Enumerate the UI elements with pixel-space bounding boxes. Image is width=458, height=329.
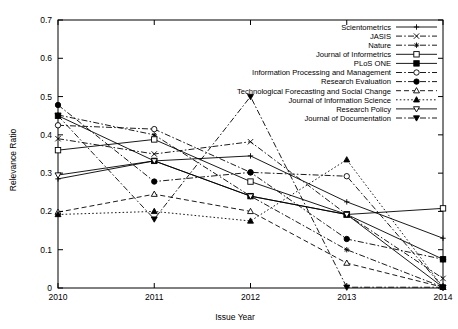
relevance-ratio-line-chart: 00.10.20.30.40.50.60.7 20102011201220132… xyxy=(0,0,458,329)
data-point-marker xyxy=(414,97,420,102)
data-point-marker xyxy=(440,236,445,241)
chart-legend: ScientometricsJASISNatureJournal of Info… xyxy=(237,23,437,123)
y-axis-title: Relevance Ratio xyxy=(8,129,18,192)
legend-item[interactable]: Journal of Informetrics xyxy=(316,50,437,59)
y-tick-label: 0.6 xyxy=(40,53,52,63)
chart-canvas: 00.10.20.30.40.50.60.7 20102011201220132… xyxy=(0,0,458,329)
series-line xyxy=(58,116,443,260)
legend-item[interactable]: Journal of Information Science xyxy=(288,96,437,105)
data-series-layer xyxy=(55,94,446,290)
series-line xyxy=(58,97,443,288)
y-tick-label: 0.3 xyxy=(40,168,52,178)
data-point-marker xyxy=(55,102,60,107)
y-tick-label: 0.5 xyxy=(40,92,52,102)
series-nature xyxy=(55,112,445,290)
data-point-marker xyxy=(414,43,419,48)
legend-label: Nature xyxy=(368,41,391,50)
y-tick-label: 0.1 xyxy=(40,245,52,255)
data-point-marker xyxy=(440,257,445,262)
legend-label: Information Processing and Management xyxy=(252,68,392,77)
data-point-marker xyxy=(414,79,419,84)
x-tick-label: 2014 xyxy=(434,292,453,302)
legend-item[interactable]: Nature xyxy=(368,41,437,50)
legend-item[interactable]: Journal of Documentation xyxy=(304,114,437,123)
legend-item[interactable]: Information Processing and Management xyxy=(252,68,437,77)
legend-item[interactable]: PLoS ONE xyxy=(354,59,437,68)
data-point-marker xyxy=(248,170,253,175)
legend-label: Technological Forecasting and Social Cha… xyxy=(237,87,391,96)
data-point-marker xyxy=(414,33,419,38)
legend-item[interactable]: Research Evaluation xyxy=(321,77,437,86)
series-journal-of-informetrics xyxy=(55,137,445,217)
legend-label: Research Evaluation xyxy=(321,77,391,86)
series-line xyxy=(58,125,443,287)
x-tick-label: 2011 xyxy=(145,292,164,302)
data-point-marker xyxy=(152,137,157,142)
data-point-marker xyxy=(440,206,445,211)
legend-label: Journal of Information Science xyxy=(288,96,391,105)
legend-label: PLoS ONE xyxy=(354,59,391,68)
data-point-marker xyxy=(55,173,61,178)
data-point-marker xyxy=(151,217,157,222)
x-axis-ticks: 20102011201220132014 xyxy=(49,20,453,302)
legend-item[interactable]: JASIS xyxy=(370,32,437,41)
legend-item[interactable]: Scientometrics xyxy=(341,23,437,32)
data-point-marker xyxy=(55,123,60,128)
x-tick-label: 2010 xyxy=(49,292,68,302)
data-point-marker xyxy=(248,153,253,158)
legend-label: Journal of Informetrics xyxy=(316,50,391,59)
series-technological-forecasting-and-social-change xyxy=(55,191,446,289)
data-point-marker xyxy=(344,199,349,204)
data-point-marker xyxy=(151,208,157,213)
legend-label: JASIS xyxy=(370,32,391,41)
data-point-marker xyxy=(414,61,419,66)
y-tick-label: 0.7 xyxy=(40,15,52,25)
y-tick-label: 0.2 xyxy=(40,206,52,216)
data-point-marker xyxy=(344,247,349,252)
x-tick-label: 2012 xyxy=(241,292,260,302)
series-plos-one xyxy=(55,113,445,262)
data-point-marker xyxy=(344,236,349,241)
data-point-marker xyxy=(414,116,420,121)
x-tick-label: 2013 xyxy=(337,292,356,302)
data-point-marker xyxy=(414,107,420,112)
legend-label: Scientometrics xyxy=(341,23,391,32)
data-point-marker xyxy=(414,70,419,75)
data-point-marker xyxy=(414,52,419,57)
data-point-marker xyxy=(344,157,350,162)
data-point-marker xyxy=(414,88,420,93)
data-point-marker xyxy=(151,191,157,196)
legend-item[interactable]: Research Policy xyxy=(336,105,437,114)
series-journal-of-documentation xyxy=(55,94,446,290)
x-axis-title: Issue Year xyxy=(215,312,255,322)
legend-item[interactable]: Technological Forecasting and Social Cha… xyxy=(237,87,437,96)
data-point-marker xyxy=(414,24,419,29)
data-point-marker xyxy=(248,179,253,184)
data-point-marker xyxy=(344,260,350,265)
data-point-marker xyxy=(344,174,349,179)
data-point-marker xyxy=(152,179,157,184)
y-tick-label: 0.4 xyxy=(40,130,52,140)
legend-label: Research Policy xyxy=(336,105,391,114)
data-point-marker xyxy=(55,147,60,152)
legend-label: Journal of Documentation xyxy=(304,114,391,123)
data-point-marker xyxy=(152,126,157,131)
